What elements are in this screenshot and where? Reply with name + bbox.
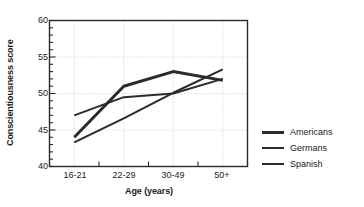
legend-label-germans: Germans bbox=[290, 143, 327, 153]
legend-item-spanish: Spanish bbox=[262, 156, 333, 172]
legend-swatch-americans-icon bbox=[262, 131, 284, 134]
chart-legend: Americans Germans Spanish bbox=[262, 124, 333, 172]
legend-label-americans: Americans bbox=[290, 127, 333, 137]
legend-swatch-spanish-icon bbox=[262, 163, 284, 165]
plot-area bbox=[0, 0, 364, 207]
legend-item-americans: Americans bbox=[262, 124, 333, 140]
data-series-lines bbox=[74, 69, 223, 142]
legend-swatch-germans-icon bbox=[262, 147, 284, 149]
legend-item-germans: Germans bbox=[262, 140, 333, 156]
gridlines bbox=[50, 21, 248, 167]
legend-label-spanish: Spanish bbox=[290, 159, 323, 169]
conscientiousness-by-age-chart: Conscientiousness score 60 55 50 45 40 1… bbox=[0, 0, 364, 207]
series-line-germans bbox=[74, 79, 223, 116]
